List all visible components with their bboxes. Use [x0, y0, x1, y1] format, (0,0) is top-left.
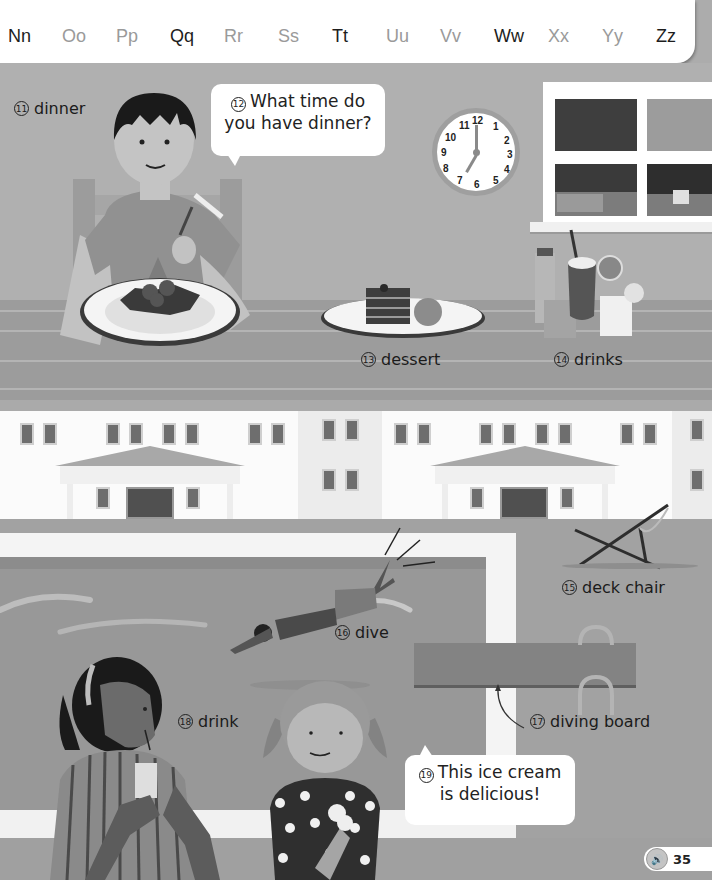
- vocab-word: dessert: [381, 350, 440, 369]
- clock-number: 8: [443, 163, 449, 174]
- alphabet-letter: Rr: [224, 26, 278, 47]
- item-number: 11: [14, 101, 29, 116]
- alphabet-letter: Tt: [332, 26, 386, 47]
- clock-number: 2: [504, 135, 510, 146]
- item-number: 12: [231, 97, 246, 112]
- item-number: 17: [530, 714, 545, 729]
- alphabet-letter: Pp: [116, 26, 170, 47]
- vocab-dive: 16 dive: [335, 623, 389, 642]
- bubble-tail: [227, 154, 241, 166]
- dinner-plate-illustration: [75, 270, 245, 350]
- bubble-tail: [419, 745, 433, 757]
- clock-number: 1: [493, 121, 499, 132]
- alphabet-letter: Zz: [656, 26, 710, 47]
- wall-clock: 12 1 2 3 4 5 6 7 8 9 10 11: [432, 108, 520, 196]
- alphabet-letter: Ww: [494, 26, 548, 47]
- textbook-page: NnOoPpQqRrSsTtUuVvWwXxYyZz: [0, 0, 712, 880]
- bubble-line: is delicious!: [415, 783, 565, 805]
- alphabet-letter: Yy: [602, 26, 656, 47]
- clock-number: 9: [441, 147, 447, 158]
- clock-number: 5: [493, 175, 499, 186]
- alphabet-letter: Qq: [170, 26, 224, 47]
- vocab-diving-board: 17 diving board: [530, 712, 650, 731]
- pool-ladder: [576, 625, 616, 720]
- item-number: 19: [419, 768, 434, 783]
- speaker-icon[interactable]: 🔊: [646, 848, 668, 870]
- vocab-word: deck chair: [582, 578, 665, 597]
- page-number: 35: [673, 852, 691, 867]
- alphabet-letter: Nn: [8, 26, 62, 47]
- vocab-word: drink: [198, 712, 239, 731]
- alphabet-letter: Ss: [278, 26, 332, 47]
- item-number: 16: [335, 625, 350, 640]
- alphabet-letter: Oo: [62, 26, 116, 47]
- window: [543, 82, 712, 222]
- alphabet-letters: NnOoPpQqRrSsTtUuVvWwXxYyZz: [8, 26, 710, 47]
- clock-number: 4: [504, 164, 510, 175]
- clock-number: 10: [445, 132, 456, 143]
- vocab-deck-chair: 15 deck chair: [562, 578, 665, 597]
- girl-drinking-illustration: [45, 655, 230, 880]
- vocab-word: dive: [355, 623, 389, 642]
- vocab-drinks: 14 drinks: [554, 350, 623, 369]
- item-number: 18: [178, 714, 193, 729]
- clock-center: [473, 149, 480, 156]
- alphabet-letter: Uu: [386, 26, 440, 47]
- vocab-word: dinner: [34, 99, 85, 118]
- vocab-dinner: 11 dinner: [14, 99, 85, 118]
- divider-band: [0, 400, 712, 411]
- bubble-line: This ice cream: [438, 762, 561, 782]
- vocab-word: drinks: [574, 350, 623, 369]
- speech-bubble-dinner-question: 12What time do you have dinner?: [211, 84, 385, 156]
- audio-button[interactable]: 🔊 35: [644, 847, 712, 871]
- vocab-drink: 18 drink: [178, 712, 239, 731]
- alphabet-strip: NnOoPpQqRrSsTtUuVvWwXxYyZz: [0, 0, 695, 63]
- clock-number: 3: [507, 149, 513, 160]
- vocab-word: diving board: [550, 712, 650, 731]
- vocab-dessert: 13 dessert: [361, 350, 440, 369]
- item-number: 14: [554, 352, 569, 367]
- clock-number: 6: [474, 179, 480, 190]
- alphabet-letter: Xx: [548, 26, 602, 47]
- girl-ice-cream-illustration: [255, 678, 395, 880]
- dessert-plate-illustration: [318, 282, 488, 340]
- drinks-illustration: [530, 228, 650, 338]
- clock-hour-hand: [465, 154, 478, 173]
- bubble-line: What time do: [250, 91, 365, 111]
- deck-chair-illustration: [540, 500, 700, 570]
- clock-number: 11: [459, 120, 470, 131]
- alphabet-letter: Vv: [440, 26, 494, 47]
- item-number: 15: [562, 580, 577, 595]
- diving-board-pointer: [488, 684, 528, 734]
- clock-number: 7: [457, 175, 463, 186]
- bubble-line: you have dinner?: [221, 112, 375, 134]
- item-number: 13: [361, 352, 376, 367]
- building-door: [126, 487, 174, 519]
- speech-bubble-ice-cream: 19This ice cream is delicious!: [405, 755, 575, 825]
